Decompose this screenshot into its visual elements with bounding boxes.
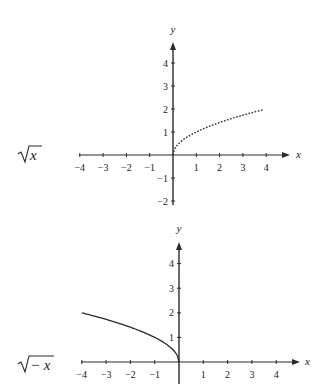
function-curve bbox=[82, 313, 179, 362]
x-tick-label: 1 bbox=[194, 162, 199, 173]
x-tick-label: −3 bbox=[98, 162, 109, 173]
y-tick-label: 1 bbox=[163, 127, 168, 138]
x-tick-label: −1 bbox=[144, 162, 155, 173]
x-tick-label: 2 bbox=[225, 369, 230, 380]
x-tick-label: −4 bbox=[74, 162, 85, 173]
y-tick-label: −2 bbox=[157, 196, 168, 207]
x-axis-label: x bbox=[304, 355, 310, 367]
x-tick-label: −3 bbox=[101, 369, 112, 380]
y-axis-label: y bbox=[176, 222, 182, 234]
x-tick-label: 4 bbox=[264, 162, 269, 173]
x-tick-label: −1 bbox=[149, 369, 160, 380]
x-tick-label: −2 bbox=[125, 369, 136, 380]
chart-canvas: −4−3−2−11234−2−11234xyx−4−3−2−112341234x… bbox=[0, 0, 324, 384]
function-curve bbox=[173, 110, 264, 155]
x-axis-arrow-icon bbox=[282, 152, 290, 158]
x-tick-label: 3 bbox=[240, 162, 245, 173]
x-tick-label: 1 bbox=[201, 369, 206, 380]
y-tick-label: 1 bbox=[169, 332, 174, 343]
y-tick-label: 3 bbox=[169, 283, 174, 294]
x-tick-label: 2 bbox=[217, 162, 222, 173]
x-axis-arrow-icon bbox=[292, 359, 300, 365]
y-axis-arrow-icon bbox=[170, 42, 176, 50]
x-tick-label: −4 bbox=[76, 369, 87, 380]
y-tick-label: −1 bbox=[157, 173, 168, 184]
svg-text:x: x bbox=[29, 147, 37, 163]
y-tick-label: 2 bbox=[163, 104, 168, 115]
svg-text:− x: − x bbox=[30, 357, 51, 373]
x-axis-label: x bbox=[295, 148, 301, 160]
x-tick-label: 4 bbox=[274, 369, 279, 380]
y-tick-label: 4 bbox=[163, 58, 168, 69]
y-axis-label: y bbox=[170, 23, 176, 35]
function-label: − x bbox=[18, 356, 54, 373]
y-axis-arrow-icon bbox=[176, 242, 182, 250]
function-label: x bbox=[18, 146, 42, 163]
y-tick-label: 2 bbox=[169, 307, 174, 318]
y-tick-label: 4 bbox=[169, 258, 174, 269]
sqrt-x-chart: −4−3−2−11234−2−11234xyx bbox=[18, 23, 301, 207]
x-tick-label: −2 bbox=[121, 162, 132, 173]
y-tick-label: 3 bbox=[163, 81, 168, 92]
x-tick-label: 3 bbox=[249, 369, 254, 380]
sqrt-neg-x-chart: −4−3−2−112341234xy− x bbox=[18, 222, 310, 384]
